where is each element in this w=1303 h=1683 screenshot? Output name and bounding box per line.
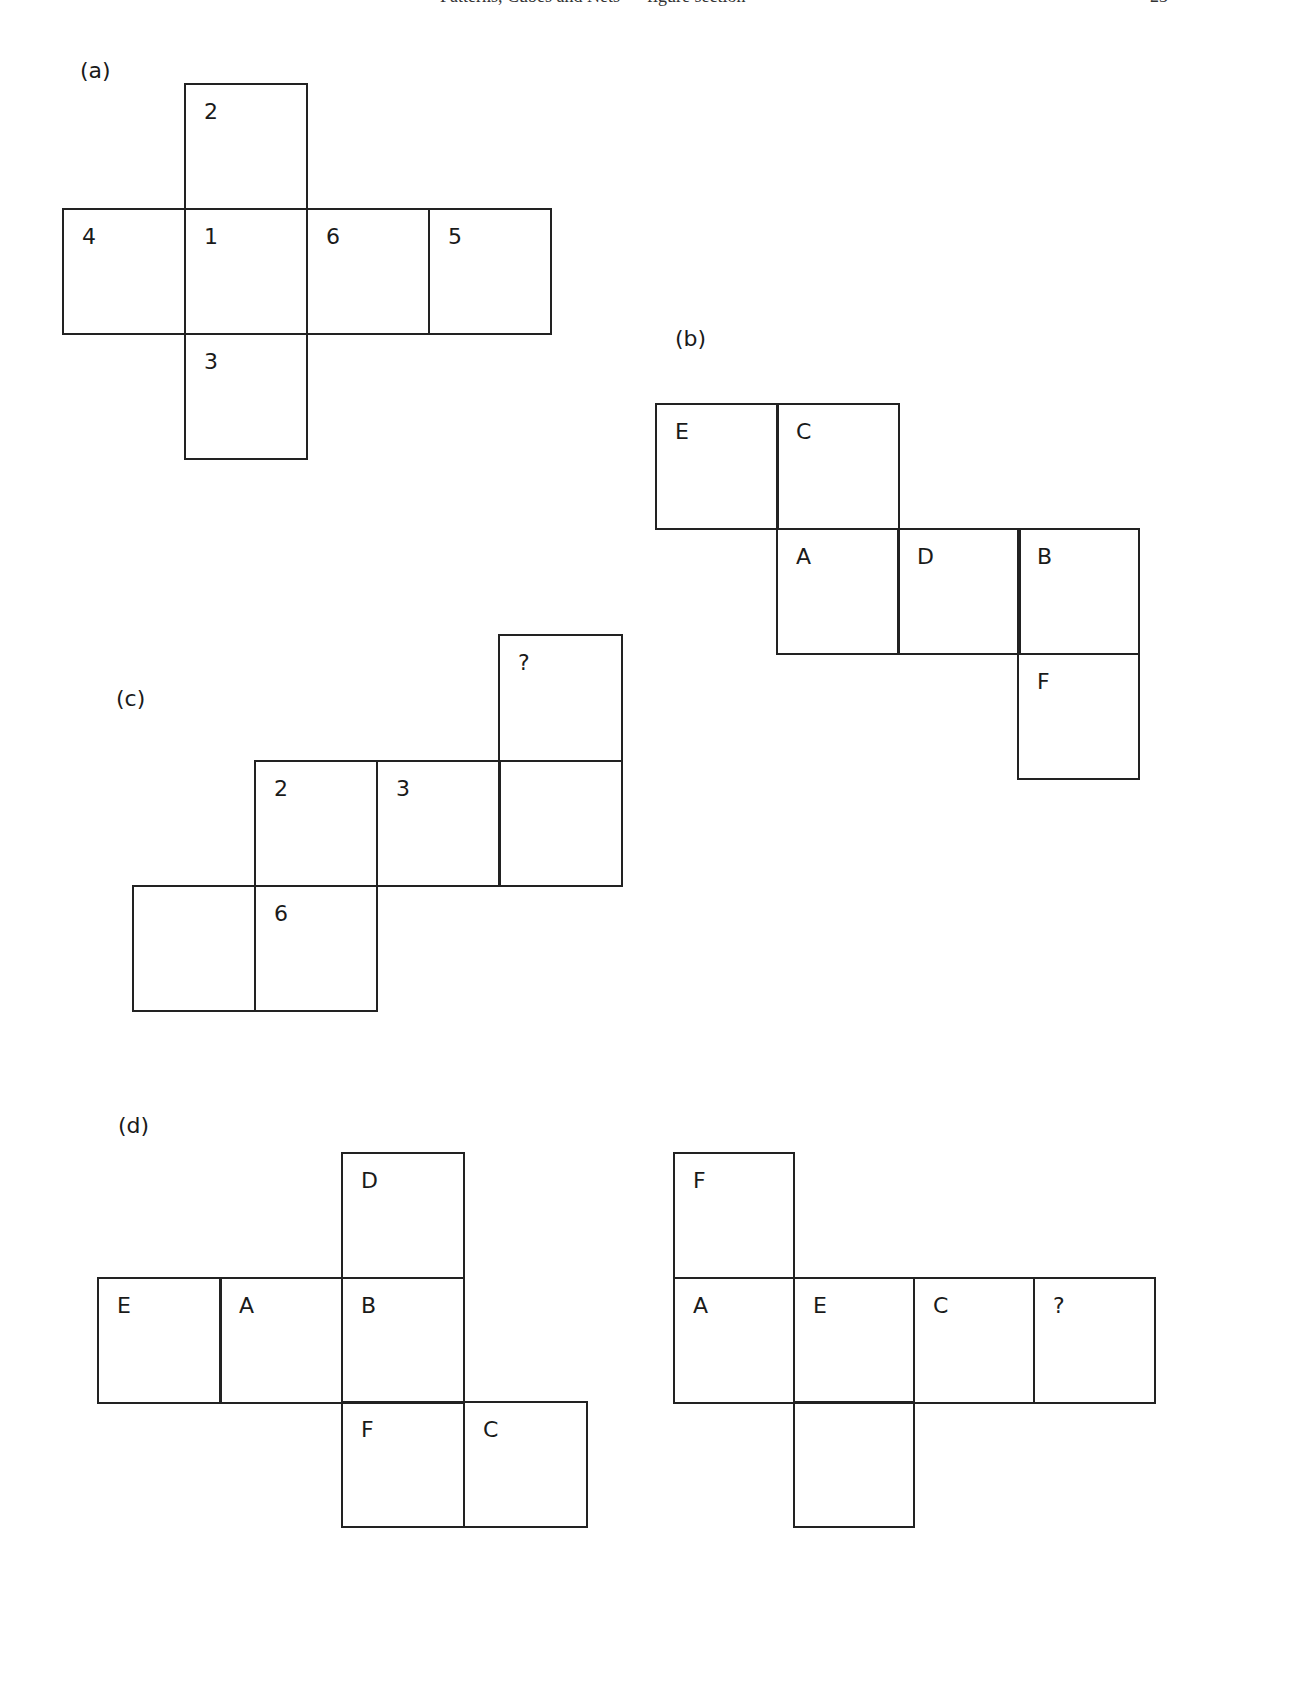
net-d-right-cell-2: A [673, 1277, 795, 1404]
cell-label: A [239, 1293, 254, 1318]
page-header: Patterns, Cubes and Nets — figure sectio… [0, 0, 1303, 8]
cell-label: B [361, 1293, 376, 1318]
cell-label: ? [1053, 1293, 1065, 1318]
net-c-cell-3 [498, 760, 623, 887]
net-d-right-cell-4: C [913, 1277, 1035, 1404]
net-d-left-cell-6: C [463, 1401, 588, 1528]
cell-label: D [917, 544, 934, 569]
cell-label: F [361, 1417, 374, 1442]
net-a-cell-top: 2 [184, 83, 308, 210]
net-d-left-cell-5: F [341, 1401, 465, 1528]
cell-label: 1 [204, 224, 218, 249]
cell-label: E [117, 1293, 131, 1318]
cell-label: 2 [204, 99, 218, 124]
cell-label: 2 [274, 776, 288, 801]
net-d-right-cell-6 [793, 1401, 915, 1528]
net-b-cell-6: F [1017, 653, 1140, 780]
net-c-cell-2: 3 [376, 760, 501, 887]
net-c-cell-unknown: ? [498, 634, 623, 762]
net-d-right-cell-3: E [793, 1277, 915, 1404]
net-b-cell-2: C [776, 403, 900, 530]
cell-label: E [675, 419, 689, 444]
net-d-left-cell-4: B [341, 1277, 465, 1404]
net-d-left-cell-3: A [219, 1277, 343, 1404]
net-b-cell-4: D [897, 528, 1021, 655]
figure-b-label: (b) [675, 326, 706, 351]
net-a-cell-bottom: 3 [184, 333, 308, 460]
net-d-left-cell-2: E [97, 1277, 222, 1404]
net-b-cell-5: B [1017, 528, 1140, 655]
net-a-cell-center: 1 [184, 208, 308, 335]
cell-label: A [693, 1293, 708, 1318]
cell-label: 6 [274, 901, 288, 926]
running-title: Patterns, Cubes and Nets — figure sectio… [440, 0, 745, 7]
net-a-cell-right-2: 5 [428, 208, 552, 335]
page-number: 23 [1150, 0, 1168, 7]
net-c-cell-5: 6 [254, 885, 378, 1012]
net-c-cell-4 [132, 885, 256, 1012]
net-b-cell-1: E [655, 403, 779, 530]
net-d-left-cell-1: D [341, 1152, 465, 1279]
cell-label: F [1037, 669, 1050, 694]
figure-c-label: (c) [116, 686, 145, 711]
net-a-cell-right-1: 6 [306, 208, 430, 335]
figure-d-label: (d) [118, 1113, 149, 1138]
cell-label: C [933, 1293, 948, 1318]
cell-label: 6 [326, 224, 340, 249]
cell-label: F [693, 1168, 706, 1193]
cell-label: 3 [396, 776, 410, 801]
net-c-cell-1: 2 [254, 760, 378, 887]
cell-label: ? [518, 650, 530, 675]
cell-label: E [813, 1293, 827, 1318]
cell-label: B [1037, 544, 1052, 569]
cell-label: D [361, 1168, 378, 1193]
cell-label: C [483, 1417, 498, 1442]
net-d-right-cell-unknown: ? [1033, 1277, 1156, 1404]
figure-a-label: (a) [80, 58, 111, 83]
cell-label: A [796, 544, 811, 569]
net-d-right-cell-1: F [673, 1152, 795, 1279]
cell-label: 5 [448, 224, 462, 249]
cell-label: 3 [204, 349, 218, 374]
net-b-cell-3: A [776, 528, 900, 655]
cell-label: 4 [82, 224, 96, 249]
cell-label: C [796, 419, 811, 444]
net-a-cell-left: 4 [62, 208, 186, 335]
